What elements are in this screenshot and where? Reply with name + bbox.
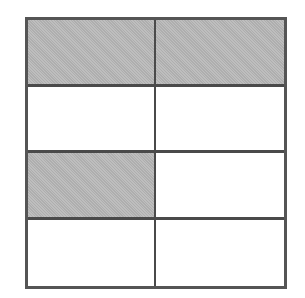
fraction-grid	[25, 17, 287, 289]
unshaded-cell	[156, 87, 284, 154]
shaded-cell	[28, 153, 156, 220]
unshaded-cell	[28, 220, 156, 287]
diagram-canvas	[0, 0, 305, 298]
shaded-cell	[156, 20, 284, 87]
unshaded-cell	[156, 153, 284, 220]
shaded-cell	[28, 20, 156, 87]
unshaded-cell	[156, 220, 284, 287]
unshaded-cell	[28, 87, 156, 154]
